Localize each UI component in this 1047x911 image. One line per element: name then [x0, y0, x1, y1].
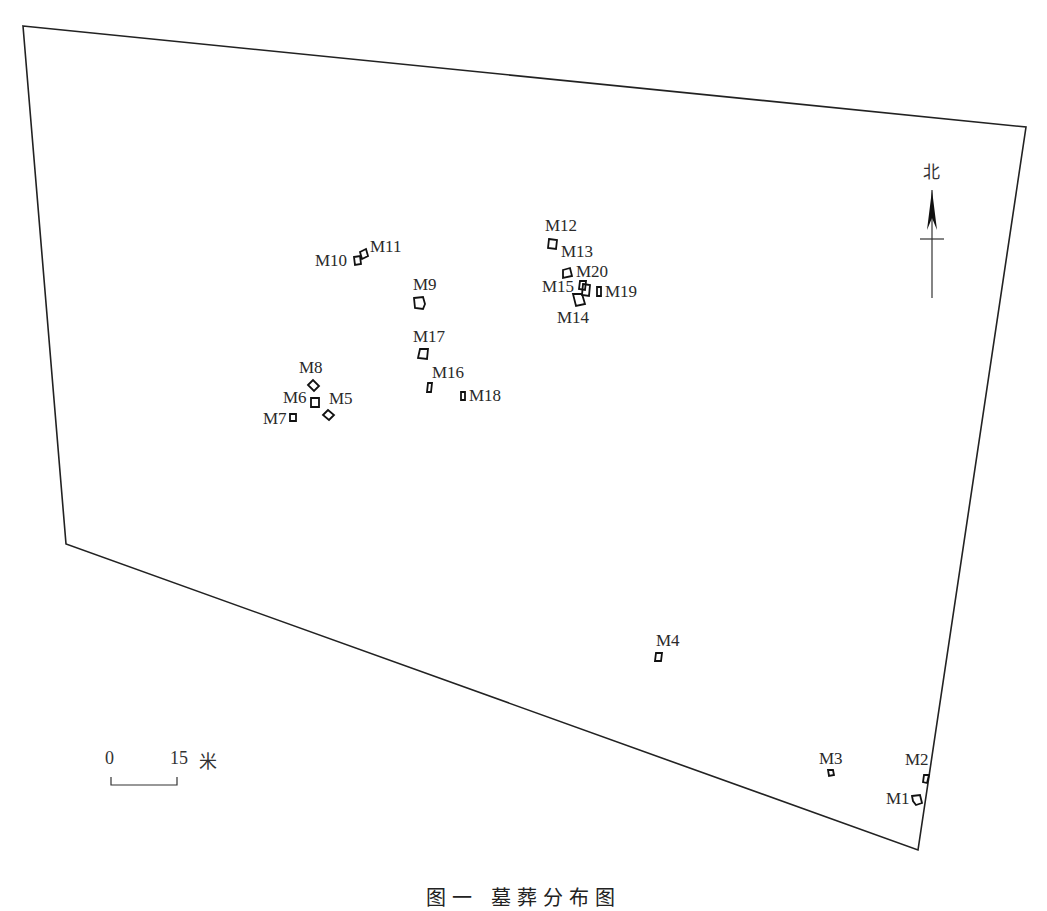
tomb-label-m18: M18	[469, 387, 501, 404]
tomb-label-m5: M5	[329, 390, 353, 407]
tomb-label-m17: M17	[413, 328, 445, 345]
tomb-outline-m3	[828, 770, 834, 776]
tomb-outline-m8	[308, 380, 319, 391]
tomb-outline-m12	[548, 239, 557, 249]
tomb-label-m10: M10	[315, 252, 347, 269]
tomb-outlines	[290, 239, 929, 805]
tomb-label-m8: M8	[299, 359, 323, 376]
tomb-outline-m1	[912, 795, 922, 805]
tomb-outline-m7	[290, 414, 296, 421]
tomb-label-m2: M2	[905, 751, 929, 768]
north-label: 北	[923, 158, 940, 183]
tomb-label-m12: M12	[545, 217, 577, 234]
tomb-outline-m11	[360, 249, 368, 259]
tomb-outline-m4	[655, 653, 662, 661]
tomb-label-m20: M20	[576, 263, 608, 280]
tomb-label-m9: M9	[413, 276, 437, 293]
tomb-outline-m5	[323, 410, 334, 420]
scale-start-label: 0	[105, 748, 114, 769]
tomb-outline-m9	[414, 297, 425, 309]
tomb-label-m19: M19	[605, 283, 637, 300]
tomb-label-m4: M4	[656, 632, 680, 649]
scale-end-label: 15	[170, 748, 188, 769]
figure-caption: 图一 墓葬分布图	[0, 882, 1047, 911]
tomb-label-m15: M15	[542, 278, 574, 295]
north-arrow-icon	[920, 190, 944, 298]
scale-bar-icon	[111, 777, 177, 785]
tomb-label-m1: M1	[886, 790, 910, 807]
tomb-label-m6: M6	[283, 389, 307, 406]
tomb-outline-m18	[461, 392, 465, 400]
tomb-label-m13: M13	[561, 243, 593, 260]
tomb-label-m16: M16	[432, 364, 464, 381]
tomb-label-m14: M14	[557, 309, 589, 326]
tomb-label-m11: M11	[370, 238, 402, 255]
scale-unit-label: 米	[199, 747, 217, 773]
tomb-label-m3: M3	[819, 750, 843, 767]
tomb-outline-m19	[597, 287, 601, 296]
tomb-outline-m16	[427, 383, 432, 392]
tomb-outline-m10	[354, 256, 361, 265]
tomb-outline-m17	[418, 349, 428, 359]
tomb-outline-m2	[923, 775, 929, 783]
site-boundary	[23, 26, 1026, 850]
tomb-label-m7: M7	[263, 410, 287, 427]
tomb-outline-m6	[311, 398, 319, 407]
